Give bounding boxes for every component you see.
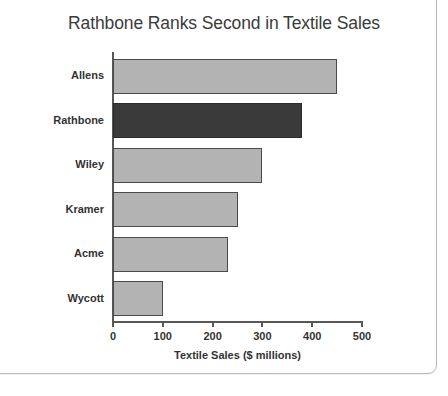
category-label-allens: Allens <box>0 69 104 81</box>
x-tick-mark <box>311 322 313 327</box>
x-axis-line <box>112 321 363 323</box>
category-label-kramer: Kramer <box>0 203 104 215</box>
x-tick-label-200: 200 <box>203 330 221 342</box>
bar-rathbone <box>113 103 302 138</box>
category-label-wiley: Wiley <box>0 158 104 170</box>
x-tick-label-500: 500 <box>353 330 371 342</box>
chart-title: Rathbone Ranks Second in Textile Sales <box>0 13 448 34</box>
x-tick-mark <box>162 322 164 327</box>
x-tick-label-0: 0 <box>110 330 116 342</box>
x-tick-mark <box>212 322 214 327</box>
x-tick-label-400: 400 <box>303 330 321 342</box>
x-tick-label-100: 100 <box>154 330 172 342</box>
category-label-rathbone: Rathbone <box>0 114 104 126</box>
bar-wycott <box>113 281 163 316</box>
category-label-acme: Acme <box>0 247 104 259</box>
bar-kramer <box>113 192 238 227</box>
bar-allens <box>113 59 337 94</box>
bar-wiley <box>113 148 262 183</box>
bar-acme <box>113 237 228 272</box>
category-label-wycott: Wycott <box>0 292 104 304</box>
bar-chart: Rathbone Ranks Second in Textile Sales A… <box>0 0 448 396</box>
x-axis-title: Textile Sales ($ millions) <box>113 349 362 361</box>
x-tick-label-300: 300 <box>253 330 271 342</box>
x-tick-mark <box>361 322 363 327</box>
x-tick-mark <box>261 322 263 327</box>
x-tick-mark <box>112 322 114 327</box>
